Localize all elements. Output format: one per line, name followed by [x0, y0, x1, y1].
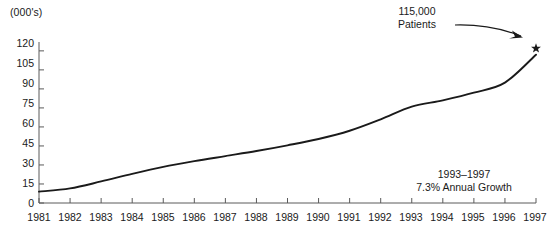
- x-tick-marks: [39, 198, 536, 203]
- callout-arrow-head: [509, 31, 523, 39]
- endpoint-star-marker: [531, 43, 541, 52]
- chart-container: (000's) 120 105 90 75 60 45 30 15 0 1981…: [0, 0, 551, 235]
- plot-area: [0, 0, 551, 235]
- y-tick-marks: [39, 51, 44, 203]
- callout-arrow-line: [455, 25, 521, 36]
- patients-series-line: [39, 55, 536, 192]
- callout-arrow: [455, 25, 523, 39]
